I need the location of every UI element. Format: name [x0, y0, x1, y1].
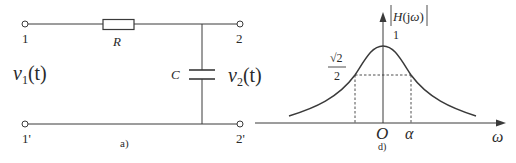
resistor-symbol — [103, 20, 134, 30]
x-axis-label: ω — [492, 128, 503, 145]
circuit-caption: a) — [120, 137, 129, 150]
y-tick-peak: 1 — [393, 28, 399, 42]
half-power-numerator: √2 — [330, 51, 343, 65]
terminal-1-prime — [22, 121, 28, 127]
y-axis-label: H(jω) — [392, 9, 424, 24]
output-voltage-label: v2(t) — [228, 64, 262, 89]
terminal-2-prime-label: 2' — [236, 131, 245, 146]
input-voltage-label: v1(t) — [13, 62, 47, 87]
terminal-1-label: 1 — [22, 31, 29, 46]
x-axis-arrow-icon — [496, 120, 506, 127]
terminal-1-prime-label: 1' — [22, 131, 31, 146]
cutoff-label: α — [405, 125, 414, 142]
terminal-2 — [237, 21, 243, 27]
half-power-denominator: 2 — [334, 69, 340, 83]
resistor-label: R — [112, 34, 121, 49]
graph-caption: d) — [378, 141, 386, 153]
terminal-2-prime — [237, 121, 243, 127]
terminal-1 — [22, 21, 28, 27]
magnitude-response-plot — [255, 12, 506, 127]
rc-circuit — [22, 20, 243, 128]
figure: 1 1' 2 2' R C a) v1(t) v2(t) H(jω) |H — [0, 0, 516, 163]
y-axis-arrow-icon — [380, 12, 387, 22]
terminal-2-label: 2 — [236, 31, 243, 46]
capacitor-label: C — [171, 67, 180, 82]
